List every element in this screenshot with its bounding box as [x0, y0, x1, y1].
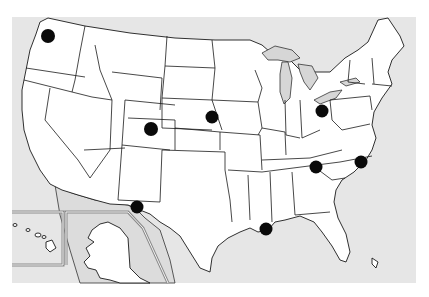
marker-new-mexico-texas[interactable] — [131, 201, 144, 214]
marker-ohio[interactable] — [316, 105, 329, 118]
marker-nebraska[interactable] — [206, 111, 219, 124]
marker-louisiana[interactable] — [260, 223, 273, 236]
marker-north-carolina[interactable] — [355, 156, 368, 169]
marker-washington[interactable] — [41, 29, 55, 43]
marker-colorado[interactable] — [144, 122, 158, 136]
us-map — [0, 0, 429, 297]
marker-georgia-sc[interactable] — [310, 161, 323, 174]
